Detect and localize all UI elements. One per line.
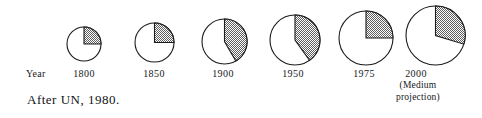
year-label-1800: 1800 — [64, 68, 104, 79]
pie-slice-shaded — [84, 27, 101, 44]
axis-title-year: Year — [26, 68, 46, 79]
pie-chart-1800 — [65, 25, 103, 63]
year-label-2000-line3: projection) — [390, 92, 446, 102]
pie-chart-1975 — [337, 9, 395, 67]
pie-chart-1900 — [200, 17, 249, 66]
year-label-1975: 1975 — [344, 68, 384, 79]
year-label-1950: 1950 — [273, 68, 313, 79]
pie-series-figure: Year 1800 1850 1900 1950 1975 2000 (Medi… — [0, 0, 482, 118]
pie-chart-1850 — [133, 21, 176, 64]
pie-slice-shaded — [155, 23, 175, 43]
pie-chart-2000 — [404, 4, 467, 67]
pie-slice-shaded — [366, 11, 393, 38]
year-label-1850: 1850 — [134, 68, 174, 79]
year-label-2000-line2: (Medium — [390, 80, 446, 90]
pie-chart-1950 — [268, 13, 322, 67]
year-label-1900: 1900 — [203, 68, 243, 79]
source-note: After UN, 1980. — [27, 92, 120, 108]
year-label-2000: 2000 — [396, 68, 436, 79]
